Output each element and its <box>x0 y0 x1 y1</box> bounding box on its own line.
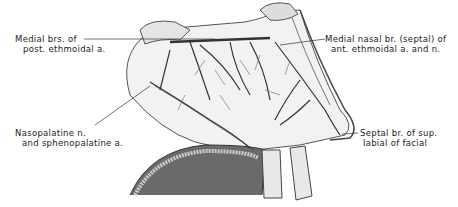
label-nasopalatine: Nasopalatine n. and sphenopalatine a. <box>15 128 123 148</box>
label-anterior-ethmoidal: Medial nasal br. (septal) of ant. ethmoi… <box>325 34 446 54</box>
label-posterior-ethmoidal: Medial brs. of post. ethmoidal a. <box>15 34 106 54</box>
nasal-septum-drawing <box>0 0 458 207</box>
anatomical-illustration: Medial brs. of post. ethmoidal a. Medial… <box>0 0 458 207</box>
label-septal-branch: Septal br. of sup. labial of facial <box>360 128 437 148</box>
